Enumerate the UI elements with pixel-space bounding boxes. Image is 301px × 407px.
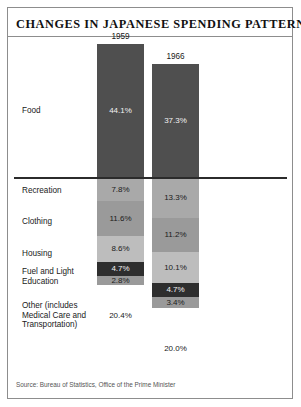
segment-1959-clothing: 11.6% [97,201,144,236]
segment-1966-education: 3.4% [152,297,199,308]
segment-1966-food: 37.3% [152,64,199,178]
value-1959-recreation: 7.8% [111,186,129,194]
category-label-education: Education [22,277,58,287]
stacked-bar-chart: 1959 1966 44.1% 7.8% 11.6% 8.6% 4.7% 2.8… [0,0,301,407]
section-divider [14,177,287,179]
chart-page: CHANGES IN JAPANESE SPENDING PATTERNS 19… [0,0,301,407]
segment-1959-recreation: 7.8% [97,178,144,201]
category-label-fuel-and-light: Fuel and Light [22,267,74,277]
category-label-other: Other (includes Medical Care and Transpo… [22,301,86,330]
category-label-food: Food [22,106,41,116]
value-1966-clothing: 11.2% [164,231,186,239]
value-1959-housing: 8.6% [111,245,129,253]
segment-1959-education: 2.8% [97,276,144,285]
bar-1959: 44.1% 7.8% 11.6% 8.6% 4.7% 2.8% [97,44,144,285]
value-1959-education: 2.8% [111,277,129,285]
value-1966-other: 20.0% [152,344,199,353]
value-1959-food: 44.1% [109,107,132,115]
value-1966-food: 37.3% [164,117,187,125]
value-1959-clothing: 11.6% [109,215,131,223]
value-1966-fuel-and-light: 4.7% [166,286,184,294]
category-label-recreation: Recreation [22,186,62,196]
segment-1966-recreation: 13.3% [152,178,199,218]
value-1966-education: 3.4% [166,299,184,307]
segment-1959-food: 44.1% [97,44,144,178]
segment-1966-fuel-and-light: 4.7% [152,283,199,297]
source-note: Source: Bureau of Statistics, Office of … [16,381,175,388]
year-label-1966: 1966 [152,52,199,61]
value-1966-housing: 10.1% [164,264,187,272]
value-1966-recreation: 13.3% [164,194,187,202]
segment-1959-housing: 8.6% [97,236,144,262]
segment-1966-clothing: 11.2% [152,218,199,252]
category-label-clothing: Clothing [22,217,52,227]
value-1959-other: 20.4% [97,311,144,320]
segment-1966-housing: 10.1% [152,252,199,283]
year-label-1959: 1959 [97,32,144,41]
category-label-housing: Housing [22,249,52,259]
segment-1959-fuel-and-light: 4.7% [97,262,144,276]
value-1959-fuel-and-light: 4.7% [111,265,129,273]
bar-1966: 37.3% 13.3% 11.2% 10.1% 4.7% 3.4% [152,64,199,308]
